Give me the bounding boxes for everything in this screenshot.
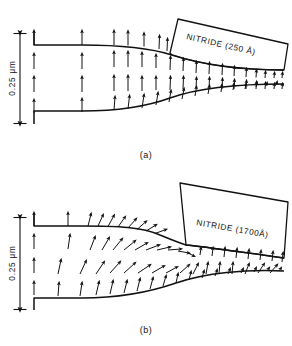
displacement-vector [156,93,158,105]
displacement-vector [196,62,197,73]
displacement-vector [282,253,283,262]
displacement-vector [137,279,140,291]
displacement-vector [180,265,189,273]
displacement-vector [266,83,267,86]
displacement-vector [124,281,127,293]
displacement-vector [102,238,109,250]
displacement-vector [168,249,181,250]
displacement-vector [110,262,120,273]
displacement-vector [200,248,201,255]
displacement-vector [209,63,210,74]
displacement-vector [193,264,198,274]
caption-b: (b) [140,325,153,335]
displacement-vector [163,276,166,286]
displacement-vector [128,219,136,228]
displacement-vector [282,73,283,78]
displacement-vector [233,84,234,90]
vector-field-a [34,31,283,113]
displacement-vector [110,281,113,294]
panel-a-svg: 0.25 μm NITRIDE (250 Å) (a) [0,0,292,173]
displacement-vector [221,85,222,92]
displacement-vector [146,245,159,250]
axis-label-a: 0.25 μm [8,60,17,95]
caption-a: (a) [140,150,153,160]
displacement-vector [265,83,266,89]
displacement-vector [183,77,184,89]
displacement-vector [282,84,283,89]
displacement-vector [124,263,135,273]
displacement-vector [98,215,103,226]
scale-bar-b: 0.25 μm [8,217,27,310]
panel-b: 0.25 μm NITRIDE (1700Å) (b) [0,173,292,346]
displacement-vector [272,252,273,261]
nitride-label-b: NITRIDE (1700Å) [196,217,270,240]
bottom-surface-b [34,271,284,311]
displacement-vector [166,267,177,273]
displacement-vector [248,250,249,259]
displacement-vector [274,84,275,89]
displacement-vector [118,217,125,227]
displacement-vector [234,67,235,76]
axis-label-b: 0.25 μm [8,245,17,280]
displacement-vector [80,261,86,274]
displacement-vector [128,96,130,109]
displacement-vector [170,77,171,90]
displacement-vector [212,248,213,256]
displacement-vector [58,260,61,274]
figure-root: 0.25 μm NITRIDE (250 Å) (a) 0.25 μm NITR… [0,0,292,346]
displacement-vector [152,266,164,273]
displacement-vector [58,283,59,296]
displacement-vector [245,264,249,274]
displacement-vector [138,265,150,273]
displacement-vector [96,262,104,274]
displacement-vector [169,91,171,102]
displacement-vector [88,214,91,226]
displacement-vector [256,71,257,78]
displacement-vector [183,59,184,71]
displacement-vector [202,271,204,278]
displacement-vector [146,225,156,231]
displacement-vector [137,222,146,230]
displacement-vector [124,241,135,250]
displacement-vector [265,72,266,78]
displacement-vector [170,57,171,70]
displacement-vector [270,265,277,273]
displacement-vector [167,39,168,51]
displacement-vector [90,237,95,250]
displacement-vector [178,251,189,253]
displacement-vector [155,230,166,234]
bottom-surface-a [34,84,284,124]
displacement-vector [108,216,114,227]
displacement-vector [236,249,237,258]
displacement-vector [114,97,115,110]
displacement-vector [113,239,122,250]
panel-a: 0.25 μm NITRIDE (250 Å) (a) [0,0,292,173]
displacement-vector [274,73,275,78]
scale-bar-a: 0.25 μm [8,33,27,124]
displacement-vector [150,278,153,289]
displacement-vector [80,283,82,296]
displacement-vector [246,69,247,77]
panel-b-svg: 0.25 μm NITRIDE (1700Å) (b) [0,173,292,346]
displacement-vector [135,243,147,250]
displacement-vector [258,264,264,273]
displacement-vector [68,235,70,249]
displacement-vector [222,65,223,75]
displacement-vector [219,263,220,274]
displacement-vector [260,251,261,260]
displacement-vector [206,263,208,274]
displacement-vector [96,282,99,295]
displacement-vector [159,36,160,49]
displacement-vector [188,253,194,256]
